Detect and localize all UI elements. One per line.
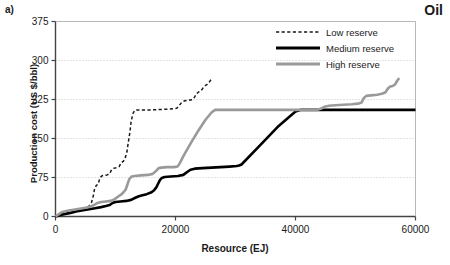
y-tick-label-75: 75 <box>37 172 49 183</box>
panel-label: a) <box>5 4 14 15</box>
x-tick-label-20000: 20000 <box>162 224 190 235</box>
plot-canvas: 0751502253003750200004000060000 Low rese… <box>0 0 450 265</box>
legend-label-high-reserve: High reserve <box>326 59 380 70</box>
x-tick-label-40000: 40000 <box>282 224 310 235</box>
series-line-high-reserve <box>56 78 400 216</box>
legend-label-low-reserve: Low reserve <box>326 27 378 38</box>
x-axis-label: Resource (EJ) <box>55 243 415 254</box>
x-tick-label-0: 0 <box>53 224 59 235</box>
data-series <box>56 78 416 216</box>
legend-label-medium-reserve: Medium reserve <box>326 43 394 54</box>
x-tick-label-60000: 60000 <box>402 224 430 235</box>
figure-oil-supply-cost-curve: a) Oil Production cost (US $/bbl) Resour… <box>0 0 450 265</box>
y-tick-label-0: 0 <box>43 211 49 222</box>
y-tick-label-375: 375 <box>32 16 49 27</box>
legend: Low reserveMedium reserveHigh reserve <box>276 27 394 70</box>
y-axis-label: Production cost (US $/bbl) <box>28 29 39 219</box>
chart-title: Oil <box>424 2 443 18</box>
